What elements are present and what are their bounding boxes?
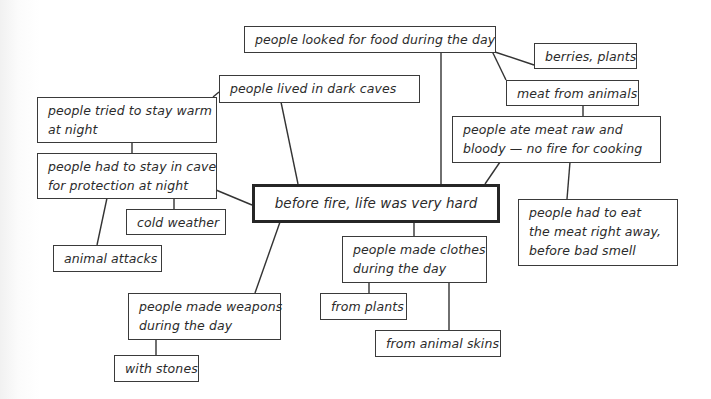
node-text: from plants — [331, 297, 396, 316]
edge-central-protection — [216, 190, 252, 205]
edge-central-weapons — [255, 222, 280, 293]
node-stay-in-cave-protection: people had to stay in cave for protectio… — [37, 153, 217, 199]
node-ate-meat-raw: people ate meat raw and bloody — no fire… — [452, 116, 661, 163]
node-with-stones: with stones — [114, 355, 199, 382]
node-cold-weather: cold weather — [126, 209, 226, 235]
node-made-clothes: people made clothes during the day — [342, 236, 487, 283]
node-meat-from-animals: meat from animals — [506, 80, 639, 106]
node-lived-in-caves: people lived in dark caves — [219, 75, 420, 103]
node-text-line-2: bloody — no fire for cooking — [463, 139, 650, 158]
edge-central-raw — [485, 162, 500, 184]
node-text-line-1: people had to stay in cave — [48, 157, 206, 176]
edge-central-caves — [281, 102, 298, 184]
node-berries-plants: berries, plants — [534, 43, 637, 69]
node-text-line-2: during the day — [139, 316, 270, 335]
node-made-weapons: people made weapons during the day — [128, 293, 281, 340]
node-text-line-2: at night — [48, 120, 206, 139]
edge-raw-eatway — [567, 162, 570, 199]
central-node: before fire, life was very hard — [252, 184, 500, 223]
node-text-line-2: the meat right away, — [529, 222, 667, 241]
node-text: meat from animals — [517, 84, 628, 103]
node-from-plants: from plants — [320, 293, 407, 320]
node-text-line-1: people made weapons — [139, 297, 270, 316]
node-looked-for-food: people looked for food during the day — [244, 26, 496, 53]
node-text: people looked for food during the day — [255, 30, 485, 49]
node-text-line-3: before bad smell — [529, 241, 667, 260]
node-text: from animal skins — [386, 334, 490, 353]
node-animal-attacks: animal attacks — [53, 245, 162, 272]
node-text-line-1: people had to eat — [529, 203, 667, 222]
node-text-line-2: for protection at night — [48, 176, 206, 195]
node-text-line-2: during the day — [353, 259, 476, 278]
node-text: animal attacks — [64, 249, 151, 268]
central-node-text: before fire, life was very hard — [265, 194, 487, 213]
node-text: people lived in dark caves — [230, 79, 409, 98]
node-text: cold weather — [137, 213, 215, 232]
node-from-animal-skins: from animal skins — [375, 330, 501, 357]
node-text-line-1: people tried to stay warm — [48, 101, 206, 120]
node-text: with stones — [125, 359, 188, 378]
node-text-line-1: people made clothes — [353, 240, 476, 259]
node-text-line-1: people ate meat raw and — [463, 120, 650, 139]
node-text: berries, plants — [545, 47, 626, 66]
node-eat-meat-right-away: people had to eat the meat right away, b… — [518, 199, 678, 266]
node-stay-warm: people tried to stay warm at night — [37, 97, 217, 143]
edge-protection-attacks — [97, 198, 107, 245]
concept-map-canvas: before fire, life was very hard people l… — [0, 0, 711, 399]
